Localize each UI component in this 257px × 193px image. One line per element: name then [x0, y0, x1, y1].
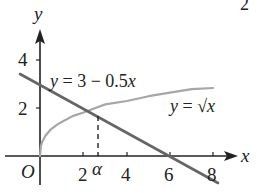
graph: y x O 4 2 2 α 4 6 8 y = 3 − 0.5x y = √x …: [0, 0, 257, 193]
alpha-label: α: [92, 158, 103, 179]
sqrt-equation-label: y = √x: [168, 96, 215, 116]
y-axis-label: y: [32, 3, 43, 24]
line-equation-label: y = 3 − 0.5x: [48, 71, 136, 91]
x-tick-label-6: 6: [164, 164, 174, 185]
x-tick-label-8: 8: [207, 164, 217, 185]
page-number: 2: [240, 0, 249, 14]
y-tick-label-2: 2: [18, 98, 28, 119]
x-tick-label-4: 4: [121, 164, 131, 185]
x-tick-label-2: 2: [78, 164, 88, 185]
origin-label: O: [21, 161, 35, 182]
x-axis-label: x: [240, 145, 250, 166]
y-tick-label-4: 4: [18, 49, 28, 70]
